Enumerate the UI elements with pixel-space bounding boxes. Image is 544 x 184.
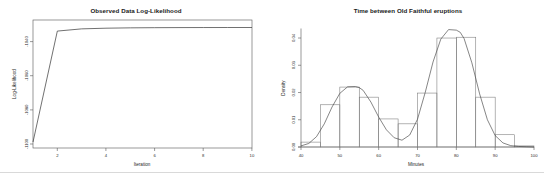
svg-text:-1060: -1060	[24, 70, 29, 81]
histogram-bar	[379, 119, 398, 147]
y-axis-title: Log-Likelihood	[12, 69, 17, 99]
histogram-bar	[456, 37, 475, 147]
histogram-bar	[495, 135, 514, 147]
svg-text:4: 4	[105, 153, 108, 158]
svg-text:0.02: 0.02	[291, 88, 296, 97]
histogram-bar	[398, 124, 417, 147]
svg-text:8: 8	[202, 153, 205, 158]
histogram-bar	[340, 87, 359, 147]
svg-text:2: 2	[56, 153, 59, 158]
svg-text:50: 50	[337, 153, 342, 158]
log-likelihood-panel: Observed Data Log-Likelihood -1100 -1080…	[0, 0, 272, 170]
x-axis-tick-labels: 405060708090100	[299, 153, 538, 158]
plot-frame	[33, 20, 252, 148]
svg-text:80: 80	[454, 153, 459, 158]
log-likelihood-series	[33, 28, 252, 143]
histogram-bar	[476, 97, 495, 147]
svg-text:0.01: 0.01	[291, 115, 296, 124]
old-faithful-panel: Time between Old Faithful eruptions 0.00…	[272, 0, 544, 170]
svg-text:0.03: 0.03	[291, 61, 296, 70]
old-faithful-svg: 0.000.010.020.030.04 405060708090100 Min…	[272, 0, 544, 170]
histogram-bar	[359, 97, 378, 147]
svg-text:-1100: -1100	[24, 138, 29, 149]
svg-text:-1080: -1080	[24, 104, 29, 115]
histogram-bar	[418, 93, 437, 147]
svg-text:60: 60	[376, 153, 381, 158]
y-axis-title: Density	[281, 80, 286, 96]
x-axis-title: Minutes	[408, 162, 425, 167]
histogram-bar	[437, 38, 456, 147]
x-axis-tick-labels: 2 4 6 8 10	[56, 153, 255, 158]
y-axis-ticks	[30, 42, 33, 144]
histogram-bar	[301, 142, 320, 147]
y-axis-tick-labels: -1100 -1080 -1060 -1040	[24, 36, 29, 150]
svg-text:6: 6	[153, 153, 156, 158]
histogram-bars	[301, 37, 534, 147]
svg-text:0.04: 0.04	[291, 33, 296, 42]
x-axis-title: Iteration	[134, 162, 151, 167]
x-axis-ticks	[301, 147, 534, 150]
svg-text:10: 10	[250, 153, 255, 158]
y-axis-ticks	[298, 38, 301, 147]
svg-text:40: 40	[299, 153, 304, 158]
footer-strip	[0, 173, 544, 184]
svg-text:100: 100	[531, 153, 539, 158]
y-axis-tick-labels: 0.000.010.020.030.04	[291, 33, 296, 151]
log-likelihood-svg: -1100 -1080 -1060 -1040 2 4 6 8 10	[0, 0, 272, 170]
plot-page: Observed Data Log-Likelihood -1100 -1080…	[0, 0, 544, 184]
x-axis-ticks	[57, 148, 252, 151]
svg-text:0.00: 0.00	[291, 142, 296, 151]
svg-text:90: 90	[493, 153, 498, 158]
svg-text:70: 70	[415, 153, 420, 158]
svg-text:-1040: -1040	[24, 36, 29, 47]
